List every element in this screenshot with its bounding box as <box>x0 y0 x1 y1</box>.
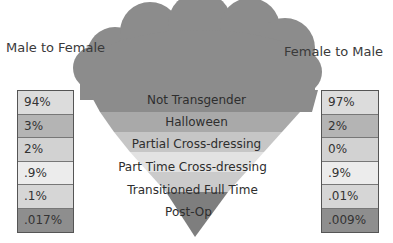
left-title: Male to Female <box>6 40 105 55</box>
left-value-cell: 94% <box>18 91 73 115</box>
right-value-cell: 2% <box>322 115 378 139</box>
left-value-cell: .1% <box>18 185 73 209</box>
right-value-cell: .01% <box>322 185 378 209</box>
left-value-cell: .017% <box>18 209 73 233</box>
left-value-cell: 3% <box>18 115 73 139</box>
left-value-table: 94% 3% 2% .9% .1% .017% <box>17 90 74 233</box>
right-value-table: 97% 2% 0% .9% .01% .009% <box>321 90 379 233</box>
right-value-cell: 0% <box>322 138 378 162</box>
right-value-cell: .9% <box>322 162 378 186</box>
right-value-cell: 97% <box>322 91 378 115</box>
right-value-cell: .009% <box>322 209 378 233</box>
right-title: Female to Male <box>284 44 383 59</box>
left-value-cell: .9% <box>18 162 73 186</box>
left-value-cell: 2% <box>18 138 73 162</box>
